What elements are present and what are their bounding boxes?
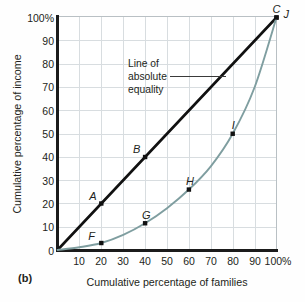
annotation-line-3: equality (128, 83, 167, 96)
data-point-label-b: B (133, 144, 140, 155)
data-point-marker (99, 241, 103, 245)
y-tick-label: 90 (2, 36, 54, 46)
y-tick-label: 10 (2, 222, 54, 232)
data-point-label-c: C (273, 4, 281, 15)
y-tick-label: 60 (2, 106, 54, 116)
y-tick-label: 50 (2, 129, 54, 139)
y-tick-label: 30 (2, 176, 54, 186)
panel-label: (b) (18, 272, 32, 284)
x-tick-label: 100% (261, 256, 295, 267)
annotation-line-2: absolute (128, 70, 167, 83)
data-point-marker (274, 15, 278, 19)
equality-line (58, 18, 277, 251)
data-point-label-a: A (89, 191, 96, 202)
annotation-leader-line (170, 76, 226, 77)
data-point-label-j: J (284, 9, 290, 20)
data-point-marker (143, 221, 147, 225)
x-axis-title: Cumulative percentage of families (57, 276, 277, 288)
y-axis-title: Cumulative percentage of income (11, 34, 23, 234)
y-axis-tick-labels: 100% 90 80 70 60 50 40 30 20 10 0 (0, 0, 54, 302)
data-point-label-i: I (232, 120, 235, 131)
y-tick-label: 0 (2, 246, 54, 256)
data-point-marker (99, 201, 103, 205)
y-tick-label: 100% (2, 13, 54, 23)
data-point-label-f: F (88, 231, 95, 242)
data-point-label-h: H (186, 176, 194, 187)
equality-line-annotation: Line of absolute equality (128, 57, 167, 97)
data-point-label-g: G (142, 210, 151, 221)
data-point-marker (231, 132, 235, 136)
y-tick-label: 20 (2, 199, 54, 209)
y-tick-label: 40 (2, 152, 54, 162)
data-point-marker (187, 187, 191, 191)
annotation-line-1: Line of (128, 57, 167, 70)
lorenz-curve-figure: 100% 90 80 70 60 50 40 30 20 10 0 10 20 … (0, 0, 305, 302)
y-tick-label: 70 (2, 82, 54, 92)
data-point-marker (143, 155, 147, 159)
y-tick-label: 80 (2, 59, 54, 69)
